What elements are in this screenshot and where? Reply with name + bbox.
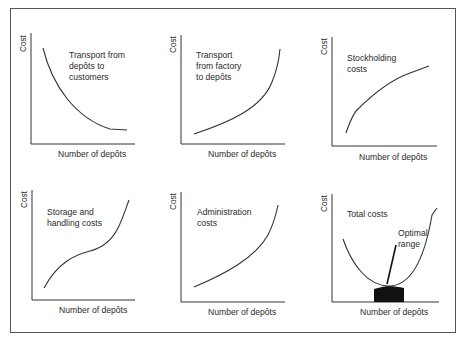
y-axis-label: Cost	[320, 194, 329, 212]
x-axis-label: Number of depôts	[208, 149, 276, 159]
title-line-2: costs	[347, 64, 367, 74]
title-line-2: from factory	[196, 61, 242, 71]
y-axis-label: Cost	[19, 34, 28, 52]
title-line-2: depôts to	[69, 61, 105, 71]
panel-total-costs: Cost Number of depôts Total costs Optima…	[320, 194, 439, 317]
y-axis-label: Cost	[169, 35, 178, 53]
title-line-2: costs	[197, 218, 217, 228]
title-line-1: Stockholding	[347, 53, 396, 63]
y-axis-label: Cost	[20, 190, 29, 208]
x-axis-label: Number of depôts	[359, 152, 427, 162]
optimal-range-label-2: range	[398, 239, 420, 249]
depot-cost-diagram: Cost Number of depôts Transport from dep…	[0, 0, 463, 340]
panel-administration-costs: Cost Number of depôts Administration cos…	[169, 192, 285, 317]
cost-curve	[346, 66, 429, 133]
optimal-range-fill	[374, 286, 404, 302]
title-line-1: Transport from	[69, 50, 125, 60]
title-line-3: customers	[69, 72, 109, 82]
title-line-1: Transport	[196, 50, 233, 60]
x-axis-label: Number of depôts	[58, 149, 126, 159]
title-line-2: handling costs	[47, 218, 102, 228]
title-line-1: Storage and	[47, 207, 94, 217]
panel-transport-factory-depots: Cost Number of depôts Transport from fac…	[169, 35, 285, 159]
title-line-1: Total costs	[347, 209, 388, 219]
optimal-range-label-1: Optimal	[398, 228, 428, 238]
panel-storage-handling-costs: Cost Number of depôts Storage and handli…	[20, 190, 135, 315]
title-line-1: Administration	[197, 207, 252, 217]
panel-stockholding-costs: Cost Number of depôts Stockholding costs	[320, 37, 437, 162]
title-line-3: to depôts	[196, 72, 231, 82]
x-axis-label: Number of depôts	[59, 305, 127, 315]
optimal-range-pointer	[387, 245, 396, 284]
y-axis-label: Cost	[320, 37, 329, 55]
panel-transport-depots-customers: Cost Number of depôts Transport from dep…	[19, 33, 135, 159]
y-axis-label: Cost	[169, 192, 178, 210]
x-axis-label: Number of depôts	[208, 307, 276, 317]
x-axis-label: Number of depôts	[360, 307, 428, 317]
